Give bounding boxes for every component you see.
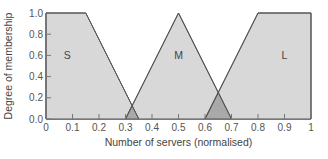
membership-shape-s [46,13,139,119]
y-tick-label: 0.2 [29,92,43,103]
set-label-m: M [174,49,183,61]
x-tick-label: 0.9 [278,122,292,133]
y-tick-label: 1.0 [29,8,43,19]
x-tick-label: 1 [308,122,314,133]
x-tick-label: 0.1 [66,122,80,133]
y-tick-label: 0.6 [29,50,43,61]
x-tick-label: 0.4 [145,122,159,133]
x-axis-title: Number of servers (normalised) [105,136,253,148]
membership-shapes [46,13,311,119]
x-tick-label: 0.8 [251,122,265,133]
x-tick-label: 0.3 [119,122,133,133]
x-tick-label: 0.5 [172,122,186,133]
set-label-s: S [64,49,71,61]
x-tick-label: 0.6 [198,122,212,133]
x-tick-label: 0.7 [225,122,239,133]
x-tick-label: 0.2 [92,122,106,133]
set-label-l: L [282,49,288,61]
y-axis-title: Degree of membership [2,12,14,119]
membership-function-chart: 00.10.20.30.40.50.60.70.80.91 0.00.20.40… [0,0,328,159]
y-tick-label: 0.0 [29,114,43,125]
y-tick-label: 0.8 [29,29,43,40]
x-tick-label: 0 [43,122,49,133]
y-tick-label: 0.4 [29,71,43,82]
